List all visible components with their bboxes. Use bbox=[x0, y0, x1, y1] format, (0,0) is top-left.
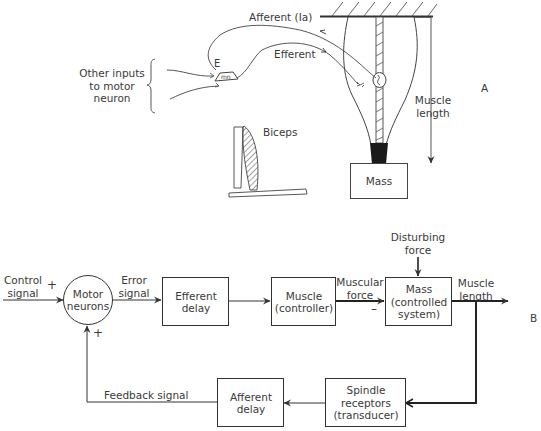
other-input-fiber-2 bbox=[170, 86, 218, 99]
control-signal-label: Control signal bbox=[2, 274, 44, 299]
plus-input-sign: + bbox=[47, 279, 57, 292]
muscular-force-label: Muscular force bbox=[335, 276, 385, 301]
biceps-label: Biceps bbox=[263, 126, 298, 139]
panel-b-label: B bbox=[530, 312, 537, 325]
spindle-receptor bbox=[373, 73, 386, 88]
efferent-label: Efferent bbox=[274, 48, 316, 61]
panel-a-illustration bbox=[147, 2, 437, 199]
neuron-mn-label: mn bbox=[221, 73, 231, 80]
muscle-length-label-b: Muscle length bbox=[454, 277, 498, 302]
error-signal-label: Error signal bbox=[114, 274, 154, 299]
muscle-controller-label: Muscle (controller) bbox=[272, 278, 336, 326]
mass-label: Mass bbox=[350, 175, 408, 188]
afferent-label: Afferent (Ia) bbox=[249, 11, 312, 24]
efferent-delay-label: Efferent delay bbox=[163, 278, 229, 326]
mass-system-label: Mass (controlled system) bbox=[386, 278, 452, 326]
spindle-receptors-label: Spindle receptors (transducer) bbox=[326, 379, 406, 427]
minus-sign: – bbox=[371, 303, 377, 316]
afferent-delay-label: Afferent delay bbox=[218, 379, 284, 427]
muscle-length-label-a: Muscle length bbox=[413, 94, 453, 119]
panel-a-label: A bbox=[481, 82, 488, 95]
ceiling-support bbox=[320, 2, 437, 17]
disturbing-force-label: Disturbing force bbox=[387, 231, 449, 256]
motor-neurons-label: Motor neurons bbox=[63, 283, 113, 317]
tendon bbox=[370, 143, 388, 164]
other-input-fiber-1 bbox=[167, 70, 213, 76]
other-inputs-label: Other inputs to motor neuron bbox=[78, 67, 146, 105]
plus-feedback-sign: + bbox=[93, 327, 103, 340]
neuron-e-label: E bbox=[214, 58, 220, 71]
feedback-signal-label: Feedback signal bbox=[104, 389, 188, 402]
brace bbox=[147, 59, 155, 113]
motor-end-plate bbox=[357, 82, 364, 87]
diagram-canvas bbox=[0, 0, 541, 431]
